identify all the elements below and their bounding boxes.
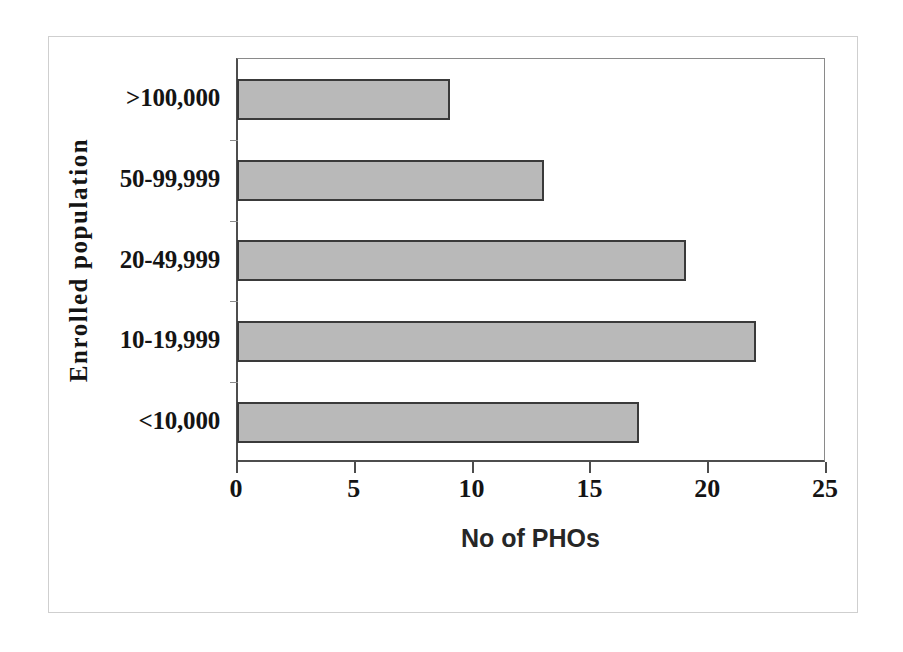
- x-axis-tick-mark: [589, 462, 591, 473]
- y-axis-tick-label: 20-49,999: [120, 220, 220, 301]
- x-axis-tick-label: 25: [812, 474, 838, 504]
- bar-slot: [238, 140, 824, 221]
- bar-slot: [238, 301, 824, 382]
- y-axis-tick-labels: >100,000 50-99,999 20-49,999 10-19,999 <…: [48, 58, 228, 462]
- x-axis-title: No of PHOs: [236, 524, 825, 553]
- bar: [237, 402, 639, 443]
- x-axis-tick-label: 10: [459, 474, 485, 504]
- figure-canvas: Enrolled population >100,000 50-99,999 2…: [0, 0, 903, 652]
- x-axis-tick-mark: [472, 462, 474, 473]
- y-axis-tick-mark: [230, 382, 238, 383]
- x-axis-tick-mark: [354, 462, 356, 473]
- y-axis-tick-mark: [230, 221, 238, 222]
- y-axis-tick-label: 50-99,999: [120, 139, 220, 220]
- bar: [237, 160, 544, 201]
- y-axis-tick-label: >100,000: [126, 58, 220, 139]
- bar-slot: [238, 59, 824, 140]
- x-axis-tick-label: 5: [347, 474, 360, 504]
- bar: [237, 240, 686, 281]
- y-axis-tick-label: 10-19,999: [120, 300, 220, 381]
- x-axis-tick-mark: [236, 462, 238, 473]
- x-axis-tick-label: 0: [230, 474, 243, 504]
- bar-slot: [238, 221, 824, 302]
- bar-slot: [238, 382, 824, 463]
- x-axis-tick-marks: [236, 462, 825, 474]
- y-axis-tick-label: <10,000: [138, 381, 220, 462]
- x-axis-tick-mark: [707, 462, 709, 473]
- y-axis-tick-mark: [230, 301, 238, 302]
- x-axis-tick-labels: 0510152025: [236, 474, 825, 514]
- bar: [237, 321, 756, 362]
- x-axis-tick-label: 15: [576, 474, 602, 504]
- x-axis-tick-label: 20: [694, 474, 720, 504]
- bar: [237, 79, 450, 120]
- plot-area: [236, 58, 825, 462]
- x-axis-tick-mark: [825, 462, 827, 473]
- y-axis-tick-mark: [230, 140, 238, 141]
